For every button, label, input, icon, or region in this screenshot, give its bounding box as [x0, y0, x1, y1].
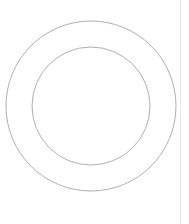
concentric-circles-diagram	[0, 0, 189, 224]
inner-circle	[32, 47, 150, 165]
outer-circle	[6, 21, 176, 191]
vertical-divider	[180, 0, 181, 224]
